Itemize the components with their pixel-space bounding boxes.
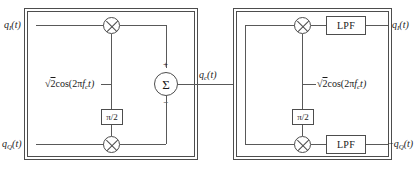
- demodulator-carrier-fc: c: [357, 83, 360, 91]
- demodulator-phase-shifter-label: π/2: [297, 112, 309, 122]
- wire-carrier-demodulator: [303, 84, 316, 85]
- modulator-input-qq-label: qQ(t): [2, 139, 22, 149]
- wire-lpf-i-output: [366, 25, 388, 26]
- modulator-multiplier-q: [103, 136, 120, 153]
- wire-carrier-vertical-demodulator: [302, 34, 303, 84]
- modulator-output-qc-subscript: c: [204, 74, 207, 82]
- demodulator-output-qi-label: qI(t): [392, 20, 409, 30]
- modulator-output-qc-label: qc(t): [199, 70, 217, 80]
- demodulator-lpf-i-label: LPF: [337, 20, 355, 31]
- wire-mult-i-to-lpf-i: [311, 25, 327, 26]
- demodulator-multiplier-i: [294, 17, 311, 34]
- wire-qq-input: [36, 144, 104, 145]
- demodulator-lpf-i: LPF: [326, 16, 366, 35]
- wire-phase-to-mult-q-demodulator: [302, 125, 303, 136]
- demodulator-phase-shifter: π/2: [292, 109, 314, 125]
- wire-demodulator-input-bus: [245, 25, 246, 144]
- modulator-carrier-body: cos(2π: [56, 78, 83, 89]
- modulator-input-qq-arg: (t): [12, 138, 21, 149]
- wire-qi-input: [36, 25, 104, 26]
- modulator-summer: Σ: [154, 72, 178, 96]
- modulator-carrier-fc: c: [85, 83, 88, 91]
- demodulator-output-qq-symbol: q: [394, 138, 399, 149]
- modulator-input-qi-arg: (t): [11, 19, 20, 30]
- demodulator-multiplier-q: [294, 136, 311, 153]
- wire-lpf-q-output: [366, 144, 388, 145]
- modulator-input-qq-subscript: Q: [7, 143, 12, 151]
- modulator-phase-shifter-label: π/2: [106, 112, 118, 122]
- wire-carrier-vertical-modulator: [111, 34, 112, 84]
- modulator-carrier-label: √2cos(2πfct): [45, 79, 94, 89]
- demodulator-carrier-suffix: t): [360, 78, 366, 89]
- wire-demod-bus-to-mult-i: [245, 25, 295, 26]
- wire-phase-to-mult-q-modulator: [111, 125, 112, 136]
- demodulator-carrier-label: √2cos(2πfct): [317, 79, 366, 89]
- diagram-canvas: qI(t) Σ + − √2cos(2πfct) π/2 qQ(t): [0, 0, 420, 169]
- modulator-input-qi-subscript: I: [9, 24, 11, 32]
- demodulator-lpf-q-label: LPF: [337, 139, 355, 150]
- demodulator-output-qq-arg: (t): [404, 138, 413, 149]
- demodulator-carrier-body: cos(2π: [328, 78, 355, 89]
- wire-summer-minus-feed: [166, 96, 167, 144]
- wire-mult-q-to-summer: [120, 144, 166, 145]
- modulator-input-qi-label: qI(t): [4, 20, 21, 30]
- wire-demod-bus-to-mult-q: [245, 144, 295, 145]
- summer-plus-sign: +: [163, 60, 168, 69]
- modulator-carrier-suffix: t): [88, 78, 94, 89]
- demodulator-output-qq-subscript: Q: [399, 143, 404, 151]
- modulator-phase-shifter: π/2: [101, 109, 123, 125]
- demodulator-output-qq-label: −qQ(t): [388, 139, 413, 149]
- wire-carrier-to-phase-modulator: [111, 84, 112, 109]
- demodulator-lpf-q: LPF: [326, 135, 366, 154]
- modulator-multiplier-i: [103, 17, 120, 34]
- wire-mult-i-to-summer: [120, 25, 166, 26]
- wire-modulator-output: [178, 84, 234, 85]
- modulator-output-qc-arg: (t): [207, 69, 216, 80]
- demodulator-output-qi-arg: (t): [399, 19, 408, 30]
- sigma-icon: Σ: [162, 78, 170, 91]
- demodulator-output-qi-subscript: I: [397, 24, 399, 32]
- wire-mult-q-to-lpf-q: [311, 144, 327, 145]
- wire-carrier-to-phase-demodulator: [302, 84, 303, 109]
